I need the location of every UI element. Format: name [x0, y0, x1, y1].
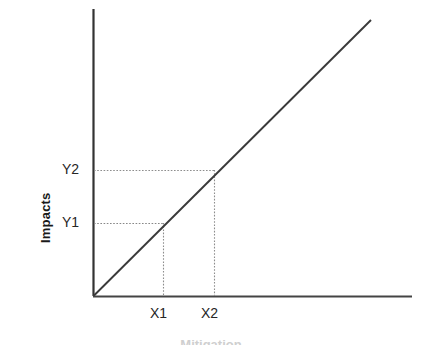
x-axis-title: Mitigation: [0, 338, 422, 345]
chart-figure: Impacts Y2 Y1 X1 X2 Mitigation: [0, 0, 422, 345]
y-tick-label-y2: Y2: [62, 161, 79, 177]
y-tick-label-y1: Y1: [62, 214, 79, 230]
y-axis-title: Impacts: [38, 192, 53, 243]
trend-line: [94, 20, 371, 296]
x-tick-label-x2: X2: [201, 305, 218, 321]
x-tick-label-x1: X1: [150, 305, 167, 321]
